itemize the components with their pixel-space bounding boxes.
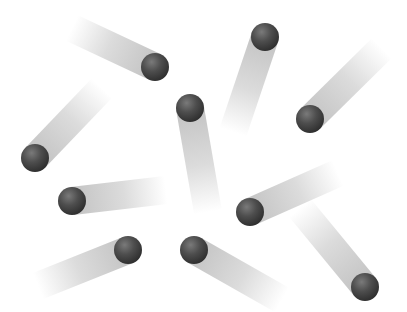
sphere — [251, 23, 279, 51]
motion-trail — [190, 108, 208, 212]
motion-trail — [310, 48, 382, 119]
sphere — [21, 144, 49, 172]
scene-canvas — [0, 0, 407, 312]
sphere — [236, 198, 264, 226]
motion-spheres-illustration — [0, 0, 407, 312]
motion-trails — [35, 28, 382, 300]
motion-trail — [300, 208, 365, 287]
sphere — [296, 105, 324, 133]
sphere — [180, 236, 208, 264]
motion-trail — [72, 190, 166, 201]
sphere — [176, 94, 204, 122]
motion-trail — [250, 173, 338, 212]
motion-trail — [35, 88, 102, 158]
sphere — [114, 236, 142, 264]
motion-trail — [38, 250, 128, 286]
sphere — [141, 53, 169, 81]
sphere — [58, 187, 86, 215]
sphere — [351, 273, 379, 301]
motion-trail — [233, 37, 265, 132]
motion-trail — [194, 250, 282, 300]
